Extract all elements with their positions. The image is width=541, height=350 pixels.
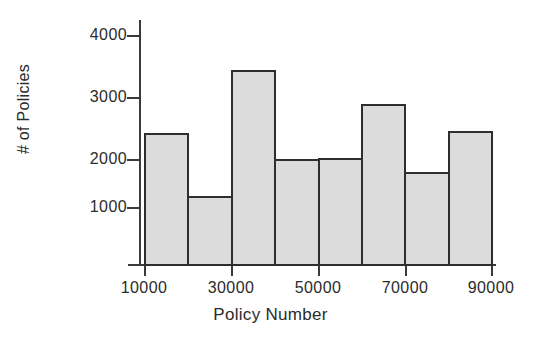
y-axis-tick <box>127 35 140 37</box>
histogram-bar <box>274 159 319 266</box>
histogram-bar <box>144 133 189 266</box>
histogram-figure: 4000 3000 2000 1000 10000 30000 50000 70… <box>0 0 541 350</box>
x-axis-tick <box>231 265 233 276</box>
histogram-bar <box>448 131 493 266</box>
x-axis-tick <box>405 265 407 276</box>
x-axis-tick <box>144 265 146 276</box>
y-axis-tick-label: 1000 <box>55 199 127 215</box>
y-axis-line <box>139 20 141 266</box>
y-axis-tick <box>127 207 140 209</box>
y-axis-tick-label: 4000 <box>55 27 127 43</box>
histogram-bar <box>361 104 406 266</box>
histogram-bar <box>187 196 232 266</box>
histogram-bar <box>231 70 276 266</box>
y-axis-tick <box>127 159 140 161</box>
x-axis-tick-label: 90000 <box>441 279 541 297</box>
y-axis-title: # of Policies <box>15 39 33 179</box>
histogram-bar <box>404 172 449 266</box>
x-axis-tick-label: 30000 <box>181 279 281 297</box>
histogram-bar <box>318 158 363 266</box>
x-axis-tick <box>318 265 320 276</box>
x-axis-tick-label: 10000 <box>94 279 194 297</box>
y-axis-tick-label: 3000 <box>55 89 127 105</box>
x-axis-title: Policy Number <box>0 305 541 325</box>
x-axis-tick-label: 70000 <box>355 279 455 297</box>
y-axis-tick <box>127 97 140 99</box>
y-axis-tick-label: 2000 <box>55 151 127 167</box>
x-axis-tick-label: 50000 <box>268 279 368 297</box>
x-axis-tick <box>491 265 493 276</box>
